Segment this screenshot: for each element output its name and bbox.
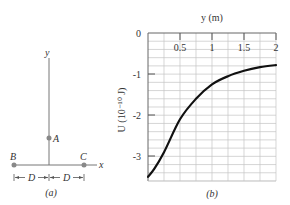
dimension-label-left: D	[27, 172, 36, 183]
x-tick-label: 1.5	[238, 42, 251, 53]
charge-b	[12, 163, 17, 168]
charge-c	[82, 163, 87, 168]
figure-b: 0.5 1 1.5 2 y (m) 0 -1 -2 -3 U (10⁻¹⁰ J)…	[116, 12, 279, 200]
y-axis-title: U (10⁻¹⁰ J)	[116, 88, 128, 133]
x-tick-label: 2	[274, 42, 279, 53]
x-tick-label: 1	[210, 42, 215, 53]
x-tick-label: 0.5	[174, 42, 187, 53]
y-tick-label: -2	[133, 110, 141, 121]
figure-canvas: y x A B C D D (a)	[0, 0, 290, 205]
caption-a: (a)	[45, 187, 57, 199]
label-b: B	[10, 151, 16, 162]
y-tick-label: 0	[136, 28, 141, 39]
y-tick-label: -1	[133, 69, 141, 80]
caption-b: (b)	[206, 188, 218, 200]
y-axis-label-a: y	[44, 47, 50, 58]
figure-a: y x A B C D D (a)	[10, 47, 104, 199]
grid	[148, 33, 276, 181]
label-a: A	[52, 133, 60, 144]
y-tick-label: -3	[133, 151, 141, 162]
x-axis-label-a: x	[98, 159, 104, 170]
charge-a	[47, 136, 52, 141]
x-axis-title: y (m)	[201, 12, 223, 24]
dimension-label-right: D	[62, 172, 71, 183]
label-c: C	[80, 151, 87, 162]
